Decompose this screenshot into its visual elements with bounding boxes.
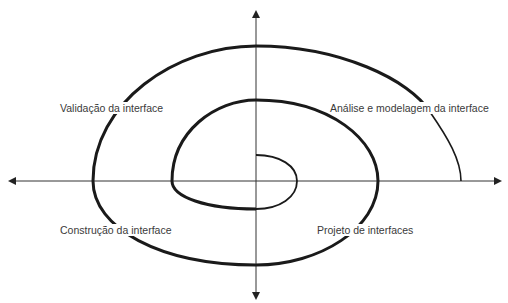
spiral-inner-segment xyxy=(256,155,297,209)
label-projeto-de-interfaces: Projeto de interfaces xyxy=(316,224,414,236)
label-construcao-da-interface: Construção da interface xyxy=(59,224,172,236)
label-analise-e-modelagem: Análise e modelagem da interface xyxy=(329,102,490,114)
label-validacao-da-interface: Validação da interface xyxy=(59,102,164,114)
spiral-outer-segment xyxy=(430,112,461,181)
spiral-diagram: Validação da interface Análise e modelag… xyxy=(0,0,508,303)
spiral-diagram-graphic xyxy=(0,0,508,303)
